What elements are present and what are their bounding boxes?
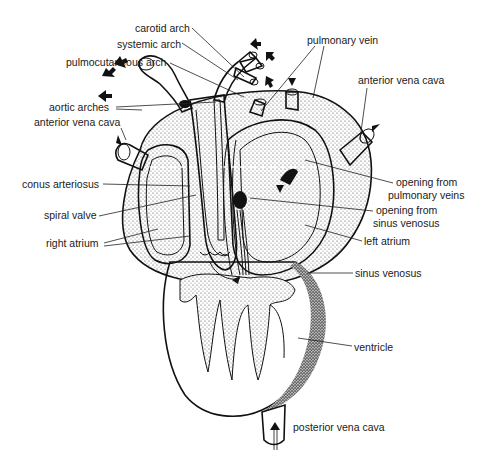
label-opening-pulmonary-1: opening from: [396, 176, 458, 188]
label-aortic-arches: aortic arches: [49, 101, 109, 113]
heart-body: [123, 91, 372, 417]
label-carotid-arch: carotid arch: [135, 22, 190, 34]
label-spiral-valve: spiral valve: [44, 209, 97, 221]
label-right-atrium: right atrium: [46, 237, 99, 249]
frog-heart-diagram: carotid arch systemic arch pulmocutaneou…: [0, 0, 489, 467]
label-pulmonary-vein: pulmonary vein: [307, 34, 378, 46]
label-opening-sinus-2: sinus venosus: [373, 217, 440, 229]
label-pulmocutaneous-arch: pulmocutaneous arch: [66, 56, 167, 68]
label-opening-sinus-1: opening from: [376, 204, 438, 216]
opening-sinus-venosus: [233, 191, 247, 209]
label-posterior-vena-cava: posterior vena cava: [293, 421, 385, 433]
label-left-atrium: left atrium: [364, 235, 410, 247]
label-anterior-vena-cava-right: anterior vena cava: [358, 74, 445, 86]
posterior-vena-cava-vessel: [262, 405, 285, 450]
label-anterior-vena-cava-left: anterior vena cava: [34, 116, 121, 128]
label-conus-arteriosus: conus arteriosus: [22, 178, 99, 190]
label-opening-pulmonary-2: pulmonary veins: [388, 189, 464, 201]
label-sinus-venosus: sinus venosus: [355, 267, 422, 279]
label-systemic-arch: systemic arch: [117, 38, 181, 50]
label-ventricle: ventricle: [354, 341, 393, 353]
ventricle-trabeculae: [180, 274, 295, 380]
